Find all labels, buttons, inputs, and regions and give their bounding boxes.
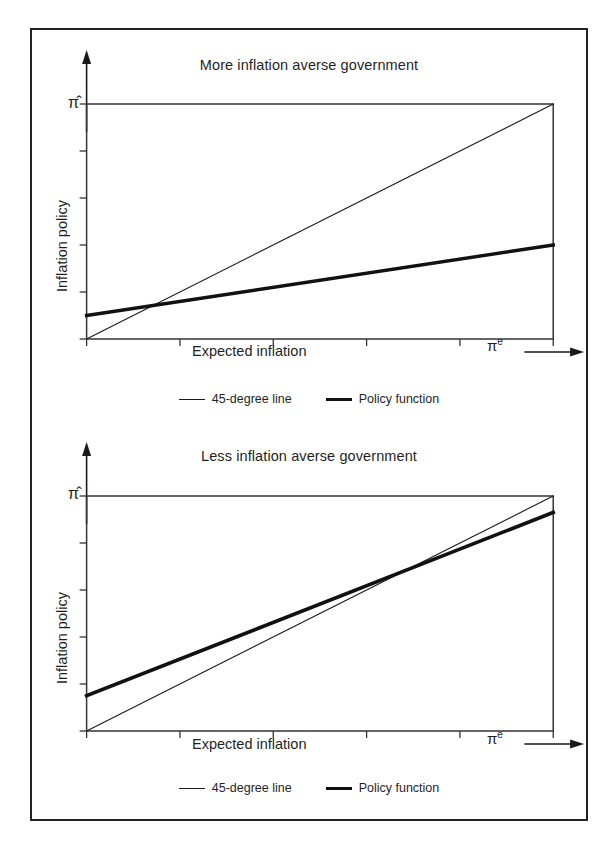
legend-item-policy-function-bottom: Policy function <box>326 781 440 795</box>
x-axis-symbol-sup-top: e <box>497 336 503 347</box>
series-45-degree-line-bottom <box>87 496 554 731</box>
series-policy-function-top <box>87 245 554 316</box>
legend-swatch-thin-icon-top <box>179 399 205 400</box>
legend-label-45-degree-line-top: 45-degree line <box>212 392 292 406</box>
legend-label-45-degree-line-bottom: 45-degree line <box>212 781 292 795</box>
x-axis-symbol-base-top: π <box>487 337 497 354</box>
legend-bottom: 45-degree line Policy function <box>32 781 586 795</box>
legend-item-45-degree-line-top: 45-degree line <box>179 392 292 406</box>
x-axis-label-bottom: Expected inflation <box>192 736 306 752</box>
x-axis-ticks-bottom <box>87 731 554 738</box>
y-axis-ticks-top <box>80 104 87 339</box>
chart-panel-less-averse: Less inflation averse government <box>32 426 586 820</box>
legend-swatch-thin-icon-bottom <box>179 788 205 789</box>
plot-area-top <box>32 30 586 426</box>
x-axis-symbol-sup-bottom: e <box>497 729 503 740</box>
x-axis-arrow-bottom <box>524 740 584 749</box>
plot-area-bottom <box>32 426 586 820</box>
x-axis-symbol-bottom: πe <box>487 729 503 747</box>
series-policy-function-bottom <box>87 512 554 695</box>
legend-swatch-thick-icon-top <box>326 398 352 401</box>
figure-frame: More inflation averse government <box>30 28 588 821</box>
x-axis-symbol-base-bottom: π <box>487 730 497 747</box>
y-axis-label-bottom: Inflation policy <box>54 592 70 684</box>
y-axis-symbol-top: π̂ <box>68 94 79 112</box>
x-axis-symbol-top: πe <box>487 336 503 354</box>
legend-label-policy-function-bottom: Policy function <box>359 781 440 795</box>
chart-panel-more-averse: More inflation averse government <box>32 30 586 426</box>
legend-top: 45-degree line Policy function <box>32 392 586 406</box>
y-axis-symbol-bottom: π̂ <box>68 485 79 503</box>
legend-swatch-thick-icon-bottom <box>326 787 352 790</box>
x-axis-label-top: Expected inflation <box>192 343 306 359</box>
legend-item-policy-function-top: Policy function <box>326 392 440 406</box>
x-axis-ticks-top <box>87 339 554 346</box>
x-axis-arrow-top <box>524 348 584 357</box>
y-axis-label-top: Inflation policy <box>54 200 70 292</box>
legend-label-policy-function-top: Policy function <box>359 392 440 406</box>
legend-item-45-degree-line-bottom: 45-degree line <box>179 781 292 795</box>
